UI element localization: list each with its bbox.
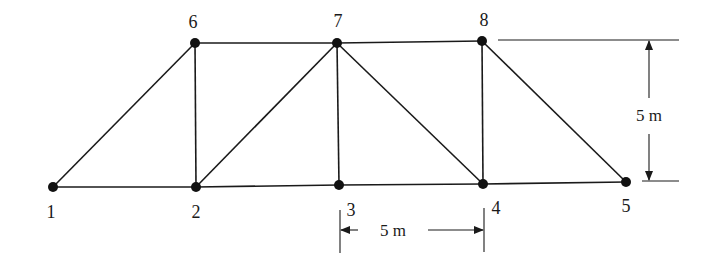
truss-member-4-5 (483, 182, 626, 184)
vertical-dimension-label: 5 m (636, 106, 662, 125)
truss-diagram: 12345678 5 m 5 m (0, 0, 703, 269)
truss-member-2-7 (196, 43, 337, 187)
truss-members (53, 41, 626, 187)
node-2 (191, 182, 201, 192)
horizontal-dimension-label: 5 m (380, 221, 406, 240)
horizontal-dimension: 5 m (340, 208, 484, 253)
node-label-3: 3 (347, 200, 356, 220)
node-label-4: 4 (492, 198, 501, 218)
truss-member-8-5 (482, 41, 626, 182)
node-label-8: 8 (480, 10, 489, 30)
node-label-6: 6 (189, 12, 198, 32)
truss-member-3-7 (337, 43, 339, 185)
vertical-dimension: 5 m (498, 40, 679, 181)
truss-member-3-4 (339, 184, 483, 185)
node-5 (621, 177, 631, 187)
node-label-5: 5 (622, 196, 631, 216)
node-label-1: 1 (47, 202, 56, 222)
node-4 (478, 179, 488, 189)
truss-member-2-6 (195, 43, 196, 187)
node-label-2: 2 (192, 202, 201, 222)
node-1 (48, 182, 58, 192)
truss-member-7-8 (337, 41, 482, 43)
node-6 (190, 38, 200, 48)
truss-member-7-4 (337, 43, 483, 184)
truss-member-1-6 (53, 43, 195, 187)
node-3 (334, 180, 344, 190)
truss-member-4-8 (482, 41, 483, 184)
truss-member-2-3 (196, 185, 339, 187)
node-label-7: 7 (334, 11, 343, 31)
node-7 (332, 38, 342, 48)
node-8 (477, 36, 487, 46)
